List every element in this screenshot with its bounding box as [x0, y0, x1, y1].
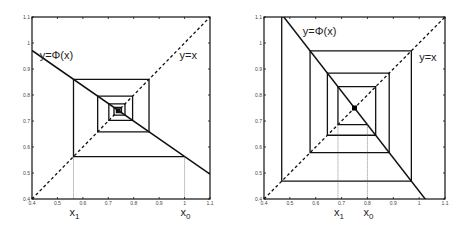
x-tick-label: 1.1 — [207, 200, 214, 206]
cobweb-figure: 0.40.50.60.70.80.911.10.40.50.60.70.80.9… — [0, 0, 464, 229]
x-tick-label: 0.8 — [130, 200, 137, 206]
cobweb-plot-1: 0.40.50.60.70.80.911.10.40.50.60.70.80.9… — [23, 14, 214, 221]
y-tick-label: 0.8 — [255, 92, 262, 98]
x-tick-label: 1.1 — [442, 200, 449, 206]
x-tick-label: 0.5 — [54, 200, 61, 206]
label-x0: x0 — [363, 206, 374, 221]
y-tick-label: 0.4 — [23, 196, 30, 202]
phi-curve — [264, 0, 445, 224]
x-tick-label: 0.5 — [286, 200, 293, 206]
label-x1: x1 — [69, 206, 80, 221]
x-tick-label: 0.6 — [312, 200, 319, 206]
annotation-yx: y=x — [419, 51, 437, 63]
y-tick-label: 0.5 — [255, 170, 262, 176]
y-tick-label: 0.6 — [23, 144, 30, 150]
x-tick-label: 0.9 — [156, 200, 163, 206]
y-tick-label: 1 — [27, 40, 30, 46]
x-tick-label: 0.9 — [390, 200, 397, 206]
y-tick-label: 0.9 — [255, 66, 262, 72]
y-tick-label: 0.8 — [23, 92, 30, 98]
fixed-point-marker — [352, 106, 357, 111]
annotation-yx: y=x — [179, 49, 197, 61]
y-tick-label: 1.1 — [23, 14, 30, 20]
phi-curve — [32, 50, 210, 174]
annotation-yx: y=Φ(x) — [40, 49, 74, 61]
y-tick-label: 0.6 — [255, 144, 262, 150]
x-tick-label: 0.6 — [79, 200, 86, 206]
x-tick-label: 0.7 — [105, 200, 112, 206]
cobweb-plot-2: 0.40.50.60.70.80.911.10.40.50.60.70.80.9… — [255, 0, 449, 224]
y-tick-label: 0.7 — [23, 118, 30, 124]
label-x0: x0 — [181, 206, 192, 221]
y-tick-label: 0.5 — [23, 170, 30, 176]
y-tick-label: 0.4 — [255, 196, 262, 202]
y-tick-label: 0.9 — [23, 66, 30, 72]
y-tick-label: 0.7 — [255, 118, 262, 124]
y-tick-label: 1.1 — [255, 14, 262, 20]
x-tick-label: 1 — [418, 200, 421, 206]
label-x1: x1 — [334, 206, 345, 221]
y-tick-label: 1 — [259, 40, 262, 46]
annotation-yx: y=Φ(x) — [303, 25, 337, 37]
